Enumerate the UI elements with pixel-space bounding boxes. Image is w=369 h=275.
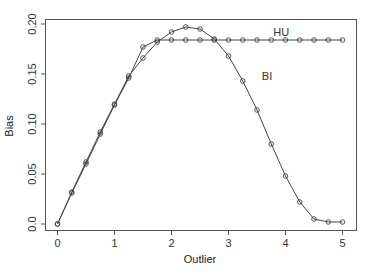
x-tick-label: 2	[168, 237, 174, 249]
y-tick-label: 0.15	[26, 63, 38, 84]
x-tick-label: 5	[339, 237, 345, 249]
series-label-hu: HU	[273, 26, 289, 38]
series-line	[58, 27, 343, 224]
series-layer: HUBI	[55, 25, 345, 227]
x-tick-label: 4	[282, 237, 288, 249]
y-tick-label: 0.10	[26, 113, 38, 134]
x-tick-label: 1	[111, 237, 117, 249]
y-axis-title: Bias	[3, 115, 15, 137]
plot-box	[46, 20, 357, 231]
x-axis-title: Outlier	[184, 253, 217, 265]
x-tick-label: 0	[54, 237, 60, 249]
y-axis: 0.00.050.100.150.20	[26, 13, 46, 231]
series-bi: BI	[55, 25, 345, 227]
bias-vs-outlier-chart: 012345 0.00.050.100.150.20 HUBI Outlier …	[0, 0, 369, 275]
y-tick-label: 0.20	[26, 13, 38, 34]
x-tick-label: 3	[225, 237, 231, 249]
series-label-bi: BI	[262, 70, 272, 82]
series-hu: HU	[55, 26, 345, 226]
y-tick-label: 0.0	[26, 216, 38, 231]
y-tick-label: 0.05	[26, 163, 38, 184]
x-axis: 012345	[54, 231, 345, 250]
